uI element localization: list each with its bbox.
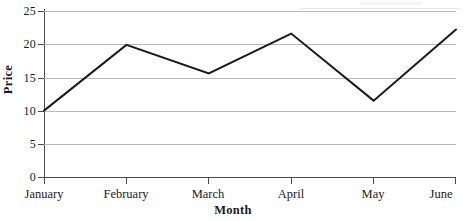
x-tick-label-june: June bbox=[417, 187, 465, 201]
x-tick-label-january: January bbox=[4, 187, 84, 201]
scan-artifact-line bbox=[300, 8, 460, 9]
x-tick-mark-february bbox=[126, 178, 127, 184]
x-axis-line bbox=[44, 177, 456, 178]
y-tick-label-20: 20 bbox=[2, 38, 36, 50]
plot-area bbox=[44, 11, 456, 177]
y-tick-0: 0 bbox=[0, 171, 36, 183]
y-tick-5: 5 bbox=[0, 138, 36, 150]
x-tick-label-may: May bbox=[339, 187, 407, 201]
x-tick-label-march: March bbox=[170, 187, 246, 201]
y-tick-20: 20 bbox=[0, 38, 36, 50]
x-tick-label-february: February bbox=[84, 187, 168, 201]
x-tick-mark-april bbox=[291, 178, 292, 184]
y-tick-label-0: 0 bbox=[2, 171, 36, 183]
x-tick-label-april: April bbox=[254, 187, 328, 201]
scan-artifact-speck bbox=[360, 2, 422, 5]
x-tick-mark-may bbox=[373, 178, 374, 184]
line-chart-figure: 25 20 15 10 5 0 January Februar bbox=[0, 0, 466, 221]
y-tick-label-5: 5 bbox=[2, 138, 36, 150]
price-series-line bbox=[44, 11, 456, 177]
x-tick-mark-january bbox=[44, 178, 45, 184]
x-tick-mark-march bbox=[208, 178, 209, 184]
y-axis-title: Price bbox=[1, 50, 16, 110]
x-tick-mark-june bbox=[455, 178, 456, 184]
y-tick-25: 25 bbox=[0, 5, 36, 17]
x-axis-title: Month bbox=[0, 203, 466, 218]
y-tick-label-25: 25 bbox=[2, 5, 36, 17]
